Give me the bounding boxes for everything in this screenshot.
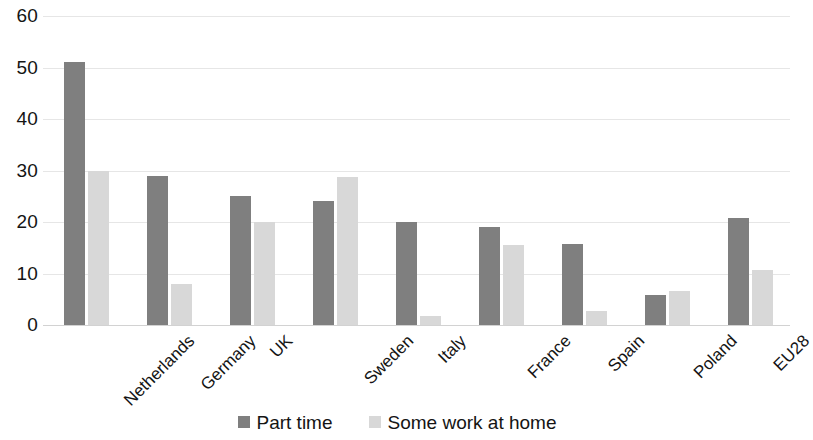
bar xyxy=(64,62,85,325)
legend-label: Some work at home xyxy=(388,413,557,432)
bar xyxy=(586,311,607,325)
bar-group xyxy=(728,16,773,325)
y-axis-tick-label: 40 xyxy=(0,109,38,128)
legend-label: Part time xyxy=(257,413,333,432)
x-axis-tick-label: France xyxy=(525,332,575,382)
bar xyxy=(503,245,524,325)
y-axis-tick-label: 0 xyxy=(0,315,38,334)
y-axis-tick-label: 50 xyxy=(0,58,38,77)
bar xyxy=(313,201,334,325)
bar xyxy=(254,222,275,325)
bar xyxy=(88,171,109,326)
x-axis-tick-label: Sweden xyxy=(361,332,417,388)
y-axis-tick-label: 60 xyxy=(0,6,38,25)
bar xyxy=(669,291,690,326)
legend-item[interactable]: Part time xyxy=(238,413,333,432)
bar xyxy=(728,218,749,325)
x-axis-tick-label: Italy xyxy=(435,332,470,367)
bar xyxy=(147,176,168,325)
legend-item[interactable]: Some work at home xyxy=(369,413,557,432)
bar xyxy=(230,196,251,325)
x-axis: NetherlandsGermanyUKSwedenItalyFranceSpa… xyxy=(43,326,790,404)
bar xyxy=(420,316,441,325)
chart-bars xyxy=(43,16,790,325)
bar xyxy=(171,284,192,325)
bar xyxy=(396,222,417,325)
bar-group xyxy=(313,16,358,325)
chart-legend: Part timeSome work at home xyxy=(0,408,794,436)
bar xyxy=(645,295,666,325)
bar-group xyxy=(479,16,524,325)
y-axis-tick-label: 30 xyxy=(0,161,38,180)
legend-swatch-icon xyxy=(369,416,381,428)
y-axis-tick-label: 20 xyxy=(0,212,38,231)
x-axis-tick-label: Germany xyxy=(197,332,259,394)
x-axis-tick-label: Spain xyxy=(605,332,648,375)
bar-group xyxy=(396,16,441,325)
x-axis-tick-label: UK xyxy=(267,332,296,361)
x-axis-tick-label: Netherlands xyxy=(121,332,199,410)
x-axis-tick-label: Poland xyxy=(691,332,741,382)
bar-group xyxy=(562,16,607,325)
bar-group xyxy=(230,16,275,325)
legend-swatch-icon xyxy=(238,416,250,428)
y-axis-tick-label: 10 xyxy=(0,264,38,283)
bar xyxy=(562,244,583,325)
bar-group xyxy=(645,16,690,325)
bar xyxy=(752,270,773,325)
bar xyxy=(337,177,358,325)
bar-group xyxy=(147,16,192,325)
bar-group xyxy=(64,16,109,325)
x-axis-tick-label: EU28 xyxy=(770,332,813,375)
bar xyxy=(479,227,500,325)
